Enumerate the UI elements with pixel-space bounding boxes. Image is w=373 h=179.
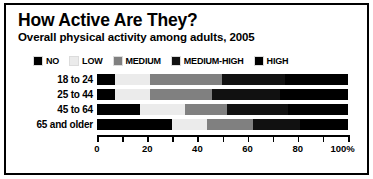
x-axis-tick xyxy=(248,136,250,142)
bar-segment xyxy=(253,119,301,130)
bar-segment xyxy=(300,119,348,130)
bar-segment xyxy=(115,89,150,100)
x-axis-tick xyxy=(223,136,225,142)
bar-segment xyxy=(172,119,207,130)
chart-row: 65 and older xyxy=(0,119,365,130)
category-label: 18 to 24 xyxy=(11,74,93,85)
x-axis-tick-label: 20 xyxy=(142,143,153,154)
chart-figure: How Active Are They? Overall physical ac… xyxy=(0,0,373,179)
x-axis-tick xyxy=(122,136,124,142)
bar-segment xyxy=(97,119,172,130)
bar-segment xyxy=(97,89,115,100)
x-axis-tick-label: 80 xyxy=(293,143,304,154)
x-axis-tick xyxy=(172,136,174,142)
x-axis-tick-label: 60 xyxy=(242,143,253,154)
category-label: 25 to 44 xyxy=(11,89,93,100)
stacked-bar xyxy=(97,104,348,115)
bar-segment xyxy=(140,104,185,115)
stacked-bar xyxy=(97,89,348,100)
bar-segment xyxy=(212,89,280,100)
bar-segment xyxy=(227,104,287,115)
bar-segment xyxy=(97,74,115,85)
category-label: 65 and older xyxy=(11,119,93,130)
bar-segment xyxy=(280,89,348,100)
bar-segment xyxy=(97,104,140,115)
x-axis-tick-label: 40 xyxy=(192,143,203,154)
bar-segment xyxy=(150,74,223,85)
bar-segment xyxy=(115,74,150,85)
x-axis-tick xyxy=(97,136,99,142)
bar-segment xyxy=(185,104,228,115)
chart-row: 18 to 24 xyxy=(0,74,365,85)
x-axis-tick xyxy=(323,136,325,142)
bar-segment xyxy=(285,74,348,85)
x-axis-tick-label: 0 xyxy=(94,143,99,154)
stacked-bar xyxy=(97,119,348,130)
bar-segment xyxy=(222,74,285,85)
stacked-bar xyxy=(97,74,348,85)
x-axis-tick xyxy=(273,136,275,142)
x-axis-tick xyxy=(298,136,300,142)
chart-row: 25 to 44 xyxy=(0,89,365,100)
bar-segment xyxy=(288,104,348,115)
x-axis-tick xyxy=(348,136,350,142)
x-axis-tick-label: 100% xyxy=(330,143,354,154)
bar-segment xyxy=(207,119,252,130)
bar-segment xyxy=(150,89,213,100)
x-axis-tick xyxy=(147,136,149,142)
chart-row: 45 to 64 xyxy=(0,104,365,115)
plot-area: 18 to 2425 to 4445 to 6465 and older0204… xyxy=(0,0,365,172)
x-axis-tick xyxy=(197,136,199,142)
category-label: 45 to 64 xyxy=(11,104,93,115)
